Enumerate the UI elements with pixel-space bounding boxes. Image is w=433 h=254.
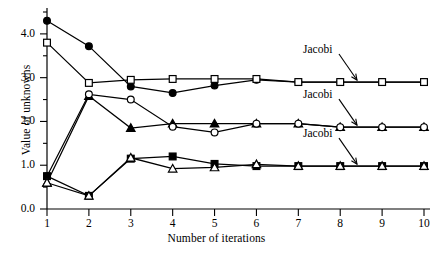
y-tick-label: 0.0 (5, 203, 35, 215)
y-tick-label: 4.0 (5, 28, 35, 40)
filled-circle-marker (85, 43, 92, 50)
open-square-marker (253, 76, 260, 83)
series-line (47, 158, 424, 196)
open-square-marker (379, 79, 386, 86)
open-square-marker (421, 79, 428, 86)
open-square-marker (169, 76, 176, 83)
open-circle-marker (127, 96, 134, 103)
series-unknown-1-gauss-seidel (44, 17, 428, 96)
x-tick-label: 7 (286, 218, 310, 230)
series-line (47, 156, 424, 195)
series-line (47, 96, 424, 183)
jacobi-annotation-label: Jacobi (303, 44, 332, 56)
y-tick-label: 1.0 (5, 159, 35, 171)
annotation-arrow (339, 54, 357, 80)
x-tick-label: 6 (244, 218, 268, 230)
open-circle-marker (211, 129, 218, 136)
open-circle-marker (253, 120, 260, 127)
series-unknown-2-gauss-seidel (43, 92, 429, 186)
filled-circle-marker (44, 17, 51, 24)
x-tick-label: 3 (119, 218, 143, 230)
jacobi-annotation-label: Jacobi (303, 128, 332, 140)
filled-square-marker (169, 153, 176, 160)
open-circle-marker (379, 124, 386, 131)
x-tick-label: 1 (35, 218, 59, 230)
series-line (47, 43, 424, 83)
open-circle-marker (295, 120, 302, 127)
x-tick-label: 9 (370, 218, 394, 230)
x-axis-ticks (47, 209, 424, 216)
open-square-marker (127, 76, 134, 83)
x-axis-title: Number of iterations (0, 232, 433, 244)
series-unknown-3-gauss-seidel (44, 153, 428, 199)
x-tick-label: 5 (203, 218, 227, 230)
plot-area (0, 0, 433, 254)
filled-circle-marker (169, 90, 176, 97)
open-square-marker (211, 76, 218, 83)
x-tick-label: 10 (412, 218, 433, 230)
filled-circle-marker (211, 82, 218, 89)
x-tick-label: 2 (77, 218, 101, 230)
chart-figure: Value of unknowns Number of iterations 0… (0, 0, 433, 254)
filled-circle-marker (127, 83, 134, 90)
y-tick-label: 2.0 (5, 115, 35, 127)
x-tick-label: 4 (161, 218, 185, 230)
series-unknown-3-jacobi (43, 154, 429, 200)
y-tick-label: 3.0 (5, 72, 35, 84)
open-square-marker (337, 79, 344, 86)
open-circle-marker (85, 91, 92, 98)
series-unknown-1-jacobi (44, 39, 428, 86)
annotation-arrow (339, 99, 357, 125)
open-square-marker (44, 39, 51, 46)
open-circle-marker (421, 124, 428, 131)
open-square-marker (85, 80, 92, 87)
jacobi-annotation-label: Jacobi (303, 89, 332, 101)
x-tick-label: 8 (328, 218, 352, 230)
annotation-arrow (339, 138, 357, 164)
open-circle-marker (169, 123, 176, 130)
open-circle-marker (337, 124, 344, 131)
open-square-marker (295, 79, 302, 86)
